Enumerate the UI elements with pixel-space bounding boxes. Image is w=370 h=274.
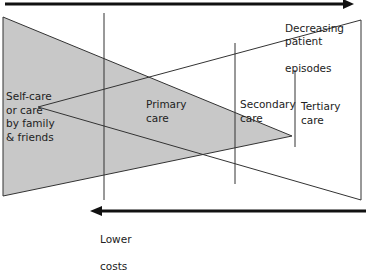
level-label-primary: Primary care <box>146 98 187 125</box>
top-arrow-label-line1: Decreasing patient <box>285 22 370 49</box>
top-arrow-label: Decreasing patient episodes <box>285 8 370 89</box>
bottom-arrow-label: Lower costs <box>100 219 131 274</box>
bottom-arrow-head-icon <box>90 206 102 216</box>
level-label-secondary: Secondary care <box>240 98 296 125</box>
level-label-tertiary: Tertiary care <box>301 100 340 127</box>
bottom-arrow-label-line1: Lower <box>100 233 131 247</box>
level-label-self-care: Self-care or care by family & friends <box>6 90 55 144</box>
bottom-arrow-label-line2: costs <box>100 260 131 274</box>
top-arrow-label-line2: episodes <box>285 62 370 76</box>
